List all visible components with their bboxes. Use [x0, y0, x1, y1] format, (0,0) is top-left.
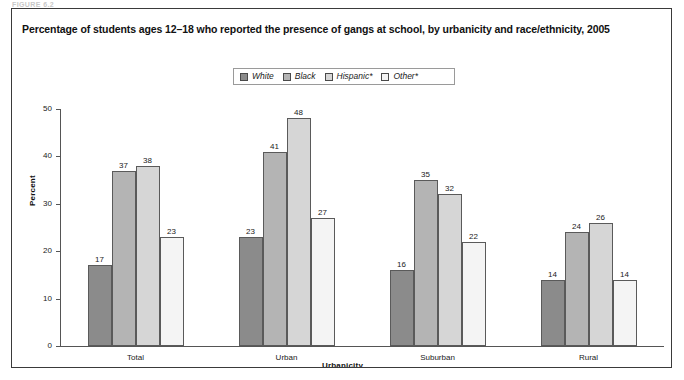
- bar-value-label: 14: [548, 270, 557, 279]
- legend-swatch-icon: [240, 73, 248, 81]
- y-axis-tick: [56, 251, 60, 252]
- bar: 37: [112, 171, 136, 346]
- bar: 27: [311, 218, 335, 346]
- legend-item-label: Black: [295, 72, 316, 81]
- bar: 26: [589, 223, 613, 346]
- bar: 35: [414, 180, 438, 346]
- legend-swatch-icon: [325, 73, 333, 81]
- legend-item-label: White: [252, 72, 274, 81]
- legend-item-white: White: [240, 72, 274, 81]
- bar: 23: [239, 237, 263, 346]
- y-axis-tick-label: 20: [34, 246, 52, 255]
- bar: 23: [160, 237, 184, 346]
- bar-value-label: 14: [620, 270, 629, 279]
- bar: 16: [390, 270, 414, 346]
- bar-value-label: 48: [294, 108, 303, 117]
- legend-item-other: Other*: [381, 72, 418, 81]
- y-axis-tick: [56, 346, 60, 347]
- bar-value-label: 41: [270, 142, 279, 151]
- bar-value-label: 26: [596, 213, 605, 222]
- y-axis-tick: [56, 204, 60, 205]
- bar-value-label: 16: [397, 260, 406, 269]
- bar: 24: [565, 232, 589, 346]
- bar: 38: [136, 166, 160, 346]
- y-axis-tick: [56, 109, 60, 110]
- chart-legend: WhiteBlackHispanic*Other*: [233, 68, 455, 85]
- y-axis-tick-label: 40: [34, 151, 52, 160]
- y-axis-tick: [56, 156, 60, 157]
- legend-item-black: Black: [283, 72, 316, 81]
- y-axis-tick-label: 30: [34, 199, 52, 208]
- legend-swatch-icon: [283, 73, 291, 81]
- bar-value-label: 38: [143, 156, 152, 165]
- legend-item-hispanic: Hispanic*: [325, 72, 373, 81]
- bar-value-label: 27: [318, 208, 327, 217]
- y-axis-tick-label: 10: [34, 294, 52, 303]
- bar: 17: [88, 265, 112, 346]
- bar-value-label: 32: [445, 184, 454, 193]
- y-axis-tick: [56, 299, 60, 300]
- chart-title: Percentage of students ages 12–18 who re…: [22, 23, 610, 35]
- bar-value-label: 22: [469, 232, 478, 241]
- bar: 48: [287, 118, 311, 346]
- figure-container: Percentage of students ages 12–18 who re…: [11, 8, 672, 368]
- bar-value-label: 17: [95, 255, 104, 264]
- bar-value-label: 23: [167, 227, 176, 236]
- y-axis-line: [60, 109, 61, 347]
- y-axis-tick-label: 0: [34, 341, 52, 350]
- bar: 41: [263, 152, 287, 346]
- y-axis-tick-label: 50: [34, 104, 52, 113]
- bar-value-label: 37: [119, 161, 128, 170]
- legend-item-label: Hispanic*: [337, 72, 373, 81]
- bar-value-label: 23: [246, 227, 255, 236]
- legend-swatch-icon: [381, 73, 389, 81]
- bar-value-label: 35: [421, 170, 430, 179]
- x-axis-label: Urbanicity: [12, 361, 672, 368]
- legend-item-label: Other*: [393, 72, 418, 81]
- bar: 22: [462, 242, 486, 346]
- x-axis-line: [60, 346, 664, 347]
- figure-number-label: FIGURE 6.2: [12, 0, 54, 8]
- bar: 32: [438, 194, 462, 346]
- bar: 14: [541, 280, 565, 346]
- plot-area: 0102030405017373823Total23414827Urban163…: [60, 109, 664, 347]
- bar-value-label: 24: [572, 222, 581, 231]
- bar: 14: [613, 280, 637, 346]
